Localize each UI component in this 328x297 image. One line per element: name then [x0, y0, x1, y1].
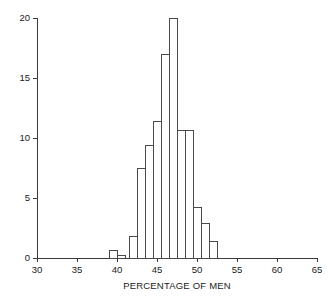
y-axis-tick-label: 10 — [19, 132, 30, 143]
histogram-bar: 49.5-50.5: 4.2 — [193, 208, 201, 258]
y-axis-tick-label: 20 — [19, 12, 30, 23]
y-axis-tick-label: 0 — [25, 252, 30, 263]
x-axis-title: PERCENTAGE OF MEN — [123, 280, 231, 291]
x-axis-tick-label: 35 — [72, 264, 83, 275]
histogram-bar: 48.5-49.5: 10.6 — [185, 131, 193, 258]
histogram-figure: 05101520303540455055606539-40: 0.640-41:… — [0, 0, 328, 297]
x-axis-tick-label: 65 — [312, 264, 323, 275]
x-axis-tick-label: 40 — [112, 264, 123, 275]
histogram-bar: 42.5-43.5: 7.5 — [137, 168, 145, 258]
histogram-bar: 47.5-48.5: 10.6 — [177, 131, 185, 258]
histogram-bar: 50.5-51.5: 2.9 — [201, 223, 209, 258]
histogram-plot: 05101520303540455055606539-40: 0.640-41:… — [0, 0, 328, 297]
histogram-bar: 41.5-42.5: 1.8 — [129, 236, 137, 258]
x-axis-tick-label: 50 — [192, 264, 203, 275]
histogram-bars: 39-40: 0.640-41: 0.2541.5-42.5: 1.842.5-… — [109, 18, 217, 258]
x-axis-tick-label: 55 — [232, 264, 243, 275]
histogram-bar: 45.5-46.5: 17 — [161, 54, 169, 258]
x-axis-tick-label: 60 — [272, 264, 283, 275]
histogram-bar: 44.5-45.5: 11.4 — [153, 121, 161, 258]
histogram-bar: 43.5-44.5: 9.4 — [145, 145, 153, 258]
x-axis-tick-label: 30 — [32, 264, 43, 275]
histogram-bar: 39-40: 0.6 — [109, 251, 117, 258]
histogram-bar: 40-41: 0.25 — [117, 255, 125, 258]
histogram-bar: 46.5-47.5: 20 — [169, 18, 177, 258]
histogram-bar: 51.5-52.5: 1.4 — [209, 241, 217, 258]
y-axis-tick-label: 15 — [19, 72, 30, 83]
y-axis-tick-label: 5 — [25, 192, 30, 203]
x-axis-tick-label: 45 — [152, 264, 163, 275]
